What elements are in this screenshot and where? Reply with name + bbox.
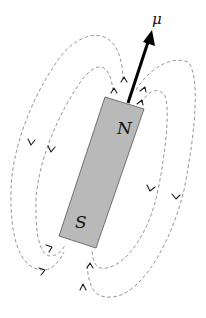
- bar-magnet: N S: [59, 97, 144, 248]
- arrowhead-up-icon: [87, 263, 93, 268]
- magnet-field-diagram: N S μ: [0, 0, 206, 318]
- moment-label: μ: [152, 10, 162, 28]
- arrowhead-down-icon: [28, 139, 35, 145]
- arrowhead-up-icon: [80, 284, 86, 290]
- arrowhead-up-icon: [140, 87, 146, 92]
- north-pole-label: N: [116, 118, 133, 138]
- south-pole-label: S: [75, 212, 87, 232]
- arrowhead-down-icon: [147, 185, 155, 191]
- arrowhead-up-icon: [111, 88, 117, 93]
- moment-arrowhead-icon: [143, 30, 155, 46]
- arrowhead-up-icon: [137, 100, 143, 105]
- arrowhead-right-icon: [39, 268, 45, 275]
- arrowhead-down-icon: [172, 194, 180, 199]
- arrowhead-down-icon: [48, 146, 55, 152]
- arrowhead-right-icon: [46, 245, 52, 252]
- moment-arrow-shaft: [128, 42, 148, 103]
- arrowhead-up-icon: [121, 77, 127, 82]
